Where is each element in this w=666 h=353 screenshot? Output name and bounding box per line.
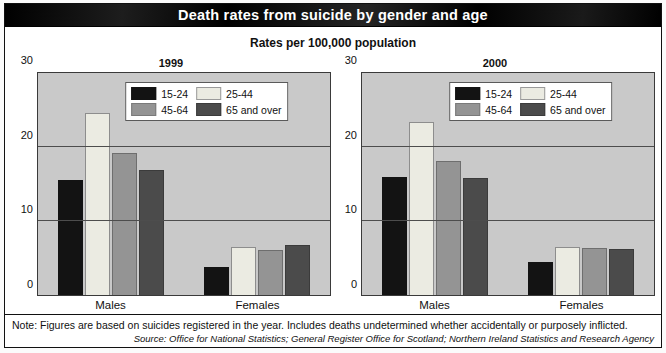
bar[interactable] xyxy=(58,180,83,295)
y-tick-label: 20 xyxy=(21,129,33,141)
legend-swatch-icon xyxy=(131,103,156,116)
legend-swatch-icon xyxy=(455,87,480,100)
legend-item[interactable]: 15-24 xyxy=(455,87,512,100)
legend-swatch-icon xyxy=(520,87,545,100)
bar[interactable] xyxy=(555,247,580,295)
bar[interactable] xyxy=(112,153,137,295)
y-tick-label: 0 xyxy=(27,278,33,290)
bar[interactable] xyxy=(582,248,607,295)
plot-row-1999: 0102030 15-2425-4445-6465 and over xyxy=(11,72,331,296)
y-tick-label: 10 xyxy=(21,203,33,215)
legend-item[interactable]: 65 and over xyxy=(520,103,605,116)
source-text: Source: Office for National Statistics; … xyxy=(12,332,654,345)
bar[interactable] xyxy=(528,262,553,295)
legend-label: 65 and over xyxy=(550,104,605,116)
bar[interactable] xyxy=(258,250,283,295)
legend-item[interactable]: 25-44 xyxy=(520,87,605,100)
legend-swatch-icon xyxy=(520,103,545,116)
bar[interactable] xyxy=(463,178,488,295)
plot-row-2000: 0102030 15-2425-4445-6465 and over xyxy=(335,72,655,296)
gridline xyxy=(38,146,330,147)
legend-label: 15-24 xyxy=(161,88,188,100)
legend-label: 15-24 xyxy=(485,88,512,100)
bar[interactable] xyxy=(382,177,407,295)
legend-swatch-icon xyxy=(131,87,156,100)
legend-label: 45-64 xyxy=(485,104,512,116)
gridline xyxy=(362,220,654,221)
figure-container: Death rates from suicide by gender and a… xyxy=(0,0,666,353)
bar[interactable] xyxy=(231,247,256,295)
note-text: Note: Figures are based on suicides regi… xyxy=(12,318,654,332)
panel-1999: 1999 0102030 15-2425-4445-6465 and over … xyxy=(11,57,331,314)
legend-item[interactable]: 45-64 xyxy=(131,103,188,116)
legend-item[interactable]: 25-44 xyxy=(196,87,281,100)
legend-item[interactable]: 65 and over xyxy=(196,103,281,116)
bar[interactable] xyxy=(204,267,229,295)
legend-label: 25-44 xyxy=(550,88,577,100)
y-tick-label: 10 xyxy=(345,203,357,215)
legend-swatch-icon xyxy=(196,103,221,116)
panels-row: 1999 0102030 15-2425-4445-6465 and over … xyxy=(5,50,661,314)
legend-label: 25-44 xyxy=(226,88,253,100)
bar[interactable] xyxy=(436,161,461,295)
x-labels-2000: MalesFemales xyxy=(335,296,655,314)
legend-1999: 15-2425-4445-6465 and over xyxy=(125,82,288,121)
y-tick-label: 0 xyxy=(351,278,357,290)
panel-title-2000: 2000 xyxy=(335,57,655,72)
legend-label: 45-64 xyxy=(161,104,188,116)
chart-subtitle: Rates per 100,000 population xyxy=(5,27,661,50)
legend-2000: 15-2425-4445-6465 and over xyxy=(449,82,612,121)
bar[interactable] xyxy=(285,245,310,295)
y-tick-label: 30 xyxy=(21,54,33,66)
plot-area-1999: 15-2425-4445-6465 and over xyxy=(37,72,331,296)
bar[interactable] xyxy=(139,170,164,295)
footnotes: Note: Figures are based on suicides regi… xyxy=(5,314,661,347)
x-axis-label: Females xyxy=(508,296,655,314)
legend-swatch-icon xyxy=(196,87,221,100)
legend-swatch-icon xyxy=(455,103,480,116)
bar[interactable] xyxy=(609,249,634,295)
title-banner: Death rates from suicide by gender and a… xyxy=(5,4,661,27)
gridline xyxy=(362,146,654,147)
legend-item[interactable]: 45-64 xyxy=(455,103,512,116)
y-axis-1999: 0102030 xyxy=(11,72,37,296)
y-tick-label: 20 xyxy=(345,129,357,141)
bar[interactable] xyxy=(409,122,434,295)
legend-label: 65 and over xyxy=(226,104,281,116)
x-axis-label: Females xyxy=(184,296,331,314)
panel-title-1999: 1999 xyxy=(11,57,331,72)
plot-area-2000: 15-2425-4445-6465 and over xyxy=(361,72,655,296)
bar[interactable] xyxy=(85,113,110,295)
x-labels-1999: MalesFemales xyxy=(11,296,331,314)
gridline xyxy=(38,220,330,221)
y-axis-2000: 0102030 xyxy=(335,72,361,296)
x-axis-label: Males xyxy=(37,296,184,314)
x-axis-label: Males xyxy=(361,296,508,314)
panel-2000: 2000 0102030 15-2425-4445-6465 and over … xyxy=(335,57,655,314)
chart-frame: Death rates from suicide by gender and a… xyxy=(4,3,662,348)
y-tick-label: 30 xyxy=(345,54,357,66)
legend-item[interactable]: 15-24 xyxy=(131,87,188,100)
page-title: Death rates from suicide by gender and a… xyxy=(178,7,488,23)
